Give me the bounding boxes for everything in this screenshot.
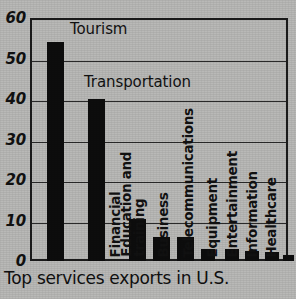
bar-label: Information (246, 171, 260, 257)
inline-bar-label: Transportation (84, 73, 191, 91)
y-tick-label: 30 (6, 132, 26, 147)
bar-label: Entertainment (226, 151, 240, 257)
y-tick-label: 50 (6, 51, 26, 66)
bar-label: Equipment (206, 178, 220, 257)
bar-label: Financial (109, 191, 123, 257)
y-tick-label: 20 (6, 173, 26, 188)
bar (265, 252, 279, 261)
bar (153, 237, 170, 261)
bar (47, 42, 64, 261)
bar (225, 249, 239, 261)
y-tick-label: 10 (6, 213, 26, 228)
bar (283, 255, 294, 261)
bar (88, 99, 105, 261)
bar-chart-figure: 0102030405060 FinancialEducation andtrai… (0, 0, 296, 299)
bars-layer: FinancialEducation andtrainingBusinessTe… (30, 18, 288, 261)
bar-label: Telecommunications (182, 108, 196, 257)
chart-caption: Top services exports in U.S. (4, 268, 229, 288)
bar (201, 249, 215, 261)
y-axis: 0102030405060 (0, 0, 30, 299)
y-tick-label: 40 (6, 92, 26, 107)
y-tick-label: 60 (6, 11, 26, 26)
bar (129, 219, 146, 261)
bar-label: Healthcare (265, 177, 279, 257)
bar (177, 237, 194, 261)
y-tick-label: 0 (16, 254, 26, 269)
bar (245, 251, 259, 261)
inline-bar-label: Tourism (70, 20, 127, 38)
